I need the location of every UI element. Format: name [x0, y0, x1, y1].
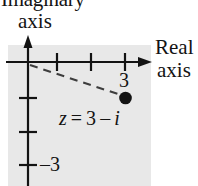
imaginary-axis-label-line2: axis: [18, 11, 52, 32]
real-axis-label-line2: axis: [157, 60, 191, 81]
equation-equals-sign: =: [71, 107, 82, 129]
equation-annotation: z = 3 – i: [59, 108, 120, 128]
complex-plane-figure: Imaginary axis Real axis 3 –3 z = 3 – i: [0, 0, 198, 186]
dashed-connector-line: [30, 65, 121, 95]
equation-minus-sign: –: [100, 107, 110, 129]
real-axis-arrowhead: [138, 57, 152, 67]
imaginary-axis-arrowhead: [24, 35, 33, 48]
equation-real-part: 3: [86, 107, 96, 129]
imaginary-axis-tick-label-neg3: –3: [40, 154, 60, 174]
equation-imaginary-unit: i: [114, 107, 120, 129]
real-axis-tick-label-3: 3: [119, 70, 129, 90]
real-axis-label-line1: Real: [155, 37, 193, 58]
data-point-marker: [119, 92, 132, 105]
equation-variable: z: [59, 107, 67, 129]
